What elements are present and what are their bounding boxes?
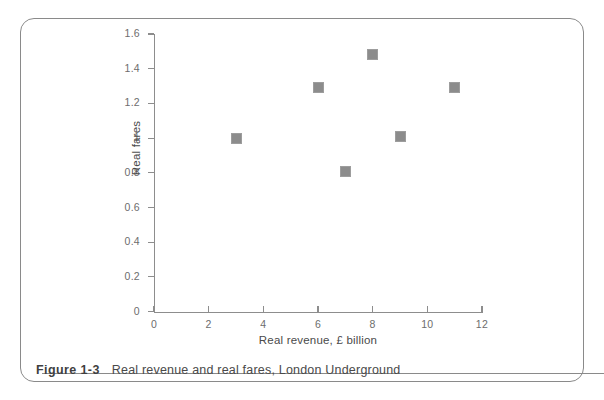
data-point[interactable] — [449, 82, 460, 93]
data-point[interactable] — [313, 82, 324, 93]
figure-number: Figure 1-3 — [36, 363, 100, 377]
data-point[interactable] — [367, 49, 378, 60]
data-point[interactable] — [395, 131, 406, 142]
data-point[interactable] — [340, 166, 351, 177]
figure-caption: Figure 1-3 Real revenue and real fares, … — [36, 360, 576, 380]
figure-frame — [20, 18, 584, 382]
data-point[interactable] — [231, 133, 242, 144]
figure-caption-text: Real revenue and real fares, London Unde… — [112, 363, 401, 377]
